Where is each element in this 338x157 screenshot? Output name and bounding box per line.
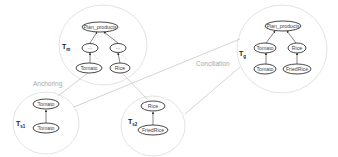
tree-ts1: Ts1 Tomato Tomato <box>16 99 59 133</box>
conciliation-label: Conciliation <box>196 60 230 67</box>
node-label: ... <box>116 44 120 50</box>
anchoring-link-rice <box>122 73 148 100</box>
anchoring-label: Anchoring <box>33 80 63 88</box>
diagram-canvas: Anchoring Conciliation Tm Plan_products … <box>0 0 338 157</box>
tree-tg: Tg Plan_products Tomato Rice Tomato Frie… <box>239 21 311 74</box>
tree-tm: Tm Plan_products ... ... Tomato Rice <box>62 22 130 73</box>
dashed-edge <box>122 55 128 60</box>
node-label: Tomato <box>256 66 273 72</box>
tree-ts2-label: Ts2 <box>128 118 138 127</box>
tree-tg-label: Tg <box>239 50 246 59</box>
edge-arrow <box>118 53 120 63</box>
dashed-edge <box>94 55 100 62</box>
tree-tm-boundary <box>59 5 147 85</box>
node-label: FriedRice <box>286 66 308 72</box>
node-label: Tomato <box>37 125 54 131</box>
tree-tg-boundary <box>237 5 327 93</box>
edge-arrow <box>287 31 296 43</box>
tree-tm-label: Tm <box>62 43 70 52</box>
edge-arrow <box>104 32 118 43</box>
dashed-edge <box>102 32 115 43</box>
node-label: Rice <box>148 103 158 109</box>
node-label: Tomato <box>37 101 54 107</box>
node-label: ... <box>88 44 92 50</box>
node-label: Plan_products <box>83 24 117 30</box>
anchoring-link-tomato <box>58 73 88 96</box>
node-label: Rice <box>292 45 302 51</box>
node-label: Rice <box>115 65 125 71</box>
tree-ts1-label: Ts1 <box>16 120 26 129</box>
conciliation-link-ts1 <box>74 39 240 107</box>
node-label: Tomato <box>80 65 97 71</box>
node-label: FriedRice <box>142 127 164 133</box>
node-label: Plan_products <box>266 23 300 29</box>
edge-arrow <box>266 31 275 43</box>
node-label: Tomato <box>256 45 273 51</box>
tree-ts2: Ts2 Rice FriedRice <box>128 101 168 135</box>
conciliation-link-ts2 <box>185 67 240 114</box>
